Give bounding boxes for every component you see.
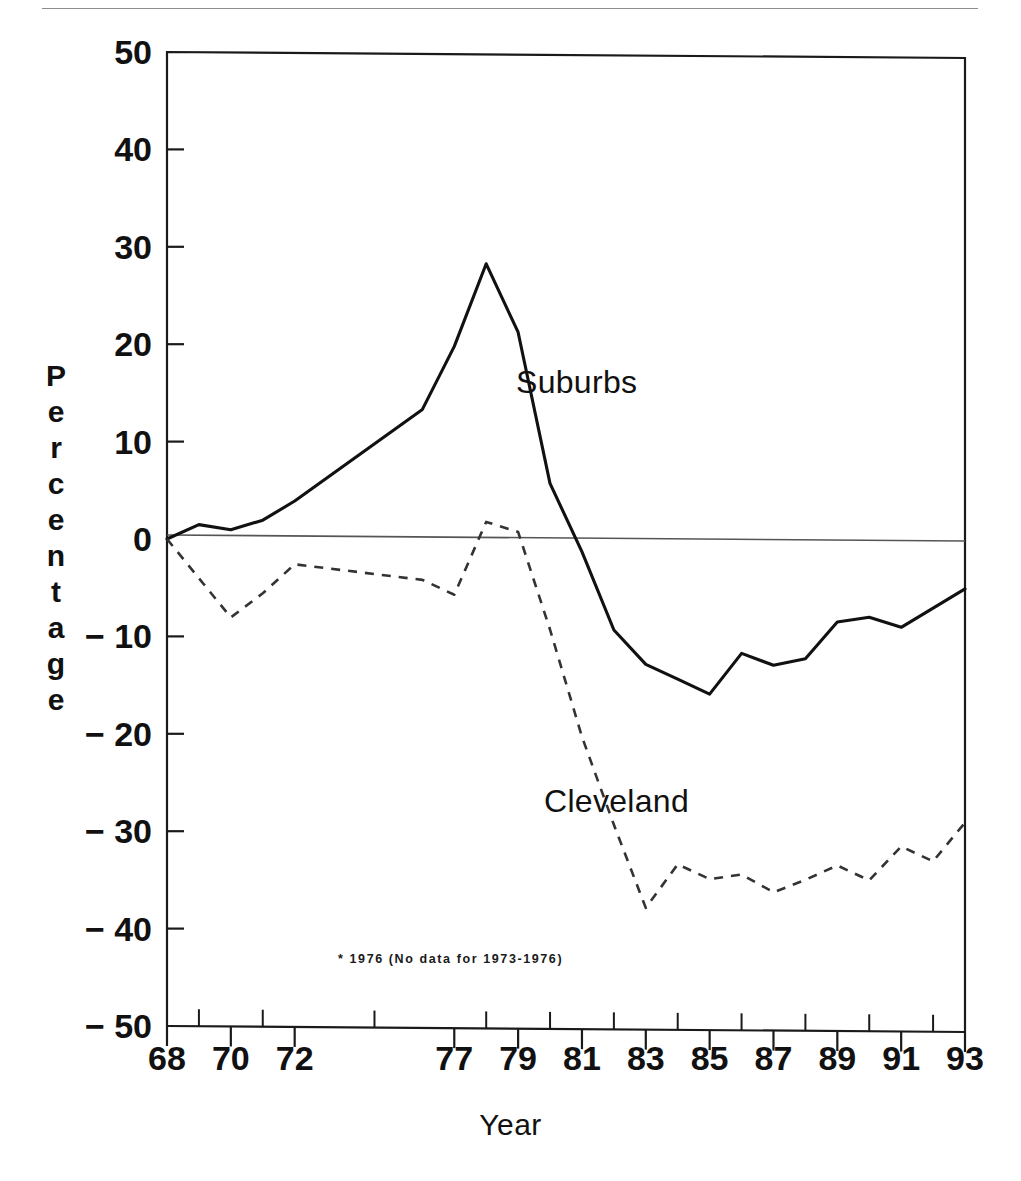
x-axis-tick-labels: 687072777981838587899193 [0,1039,1021,1099]
x-axis-tick-label: 93 [930,1039,1000,1078]
y-axis-tick-label: 40 [24,130,152,169]
y-axis-tick-label: 0 [24,520,152,559]
x-axis-tick-label: 68 [132,1039,202,1078]
series-line-cleveland [167,522,965,908]
y-axis-tick-label: − 20 [24,714,152,753]
y-axis-tick-label: 30 [24,227,152,266]
y-axis-tick-label: 10 [24,422,152,461]
chart-figure: Percentage 50403020100− 10− 20− 30− 40− … [0,0,1021,1181]
series-label-cleveland: Cleveland [544,783,689,820]
y-axis-tick-label: 20 [24,325,152,364]
series-label-suburbs: Suburbs [516,364,637,401]
axis-bottom-line [167,1026,965,1032]
x-axis-tick-label: 83 [611,1039,681,1078]
series-line-suburbs [167,264,965,694]
y-axis-tick-label: − 30 [24,812,152,851]
chart-footnote: * 1976 (No data for 1973-1976) [338,952,563,966]
chart-plot-area [0,0,1021,1181]
x-axis-tick-label: 70 [196,1039,266,1078]
x-axis-tick-label: 77 [419,1039,489,1078]
axis-frame [167,52,965,1032]
x-axis-tick-label: 87 [738,1039,808,1078]
x-axis-title: Year [0,1108,1021,1142]
x-axis-tick-label: 72 [260,1039,330,1078]
zero-reference-line [167,535,965,541]
x-axis-tick-label: 81 [547,1039,617,1078]
x-axis-tick-label: 85 [675,1039,745,1078]
y-axis-tick-label: 50 [24,33,152,72]
y-axis-tick-label: − 40 [24,909,152,948]
x-axis-tick-label: 79 [483,1039,553,1078]
y-axis-tick-labels: 50403020100− 10− 20− 30− 40− 50 [0,0,152,1181]
y-axis-tick-label: − 10 [24,617,152,656]
x-axis-tick-label: 91 [866,1039,936,1078]
x-axis-tick-label: 89 [802,1039,872,1078]
